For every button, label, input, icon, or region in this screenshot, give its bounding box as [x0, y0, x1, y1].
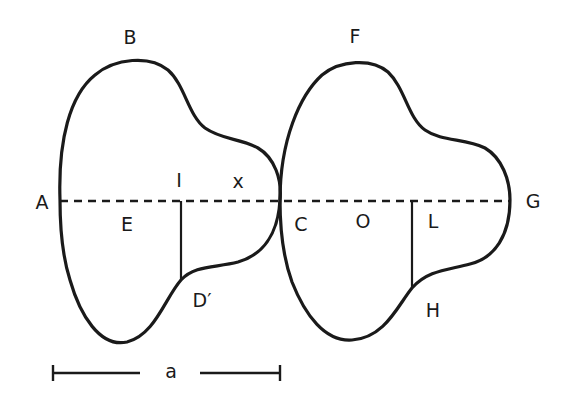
label-c: C: [294, 213, 307, 235]
label-h: H: [426, 299, 440, 321]
label-a: A: [36, 191, 49, 213]
label-g: G: [526, 190, 541, 212]
scale-bar-label: a: [165, 360, 177, 382]
label-o: O: [356, 210, 371, 232]
label-i: I: [176, 169, 182, 191]
label-x: x: [232, 170, 243, 192]
label-b: B: [123, 26, 136, 48]
label-l: L: [428, 210, 439, 232]
two-lobed-shapes-diagram: a A B C D′ E F G H I L O x: [0, 0, 567, 410]
scale-bar: a: [53, 360, 280, 382]
label-d-prime: D′: [193, 289, 212, 311]
label-e: E: [121, 213, 133, 235]
label-f: F: [350, 25, 361, 47]
